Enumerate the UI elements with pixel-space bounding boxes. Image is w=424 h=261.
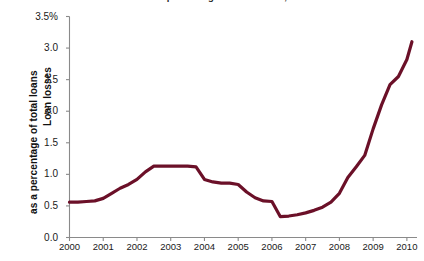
axis-tick-group [66, 17, 407, 242]
y-tick-label: 3.5% [26, 11, 58, 23]
y-tick-label: 1.0 [26, 168, 58, 180]
data-series-group [70, 42, 412, 217]
x-tick-label-text: 2010 [387, 241, 424, 252]
y-tick-label-text: 1.0 [26, 168, 58, 179]
y-tick-label: 1.5 [26, 137, 58, 149]
line-chart-plot [0, 0, 424, 261]
axis-spine-group [70, 17, 418, 238]
y-tick-label-text: 2.0 [26, 105, 58, 116]
y-tick-label: 3.0 [26, 42, 58, 54]
y-tick-label: 0.5 [26, 200, 58, 212]
y-tick-label-text: 3.5% [26, 11, 58, 22]
y-tick-label-text: 1.5 [26, 137, 58, 148]
y-tick-label-text: 2.5 [26, 74, 58, 85]
y-tick-label-text: 0.5 [26, 200, 58, 211]
y-tick-label-text: 3.0 [26, 42, 58, 53]
y-tick-label: 2.5 [26, 74, 58, 86]
chart-title-clipped: Loan losses as a percentage of total loa… [0, 0, 424, 3]
x-tick-label: 2010 [387, 241, 424, 253]
y-tick-label: 2.0 [26, 105, 58, 117]
chart-figure: Loan losses as a percentage of total loa… [0, 0, 424, 261]
